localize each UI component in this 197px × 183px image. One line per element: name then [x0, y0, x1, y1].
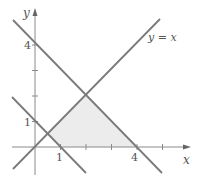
x-tick-label-1: 1	[56, 151, 63, 164]
inequality-region-diagram: y x 4 1 1 4 y = x	[0, 0, 197, 183]
x-axis-label: x	[183, 153, 190, 167]
y-axis-arrow-icon	[33, 8, 38, 16]
line-label-y-equals-x: y = x	[147, 31, 177, 44]
diagram-canvas: y x 4 1 1 4 y = x	[0, 0, 197, 183]
y-axis-label: y	[22, 6, 30, 20]
shaded-feasible-region	[48, 96, 137, 147]
x-tick-label-4: 4	[131, 151, 138, 164]
x-axis-arrow-icon	[183, 145, 191, 150]
y-tick-label-4: 4	[24, 39, 31, 52]
y-tick-label-1: 1	[24, 116, 31, 129]
